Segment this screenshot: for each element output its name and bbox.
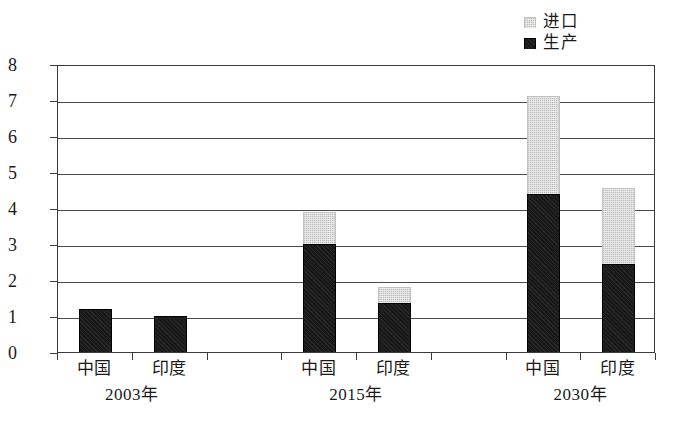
y-axis-tick-label: 2 bbox=[0, 272, 17, 290]
y-axis-tick-label: 6 bbox=[0, 128, 17, 146]
legend-item-production: 生产 bbox=[524, 33, 674, 54]
stacked-bar bbox=[602, 188, 635, 352]
y-axis-tick-label: 0 bbox=[0, 344, 17, 362]
x-axis-category-label: 中国 bbox=[54, 360, 134, 377]
bar-segment-import bbox=[378, 287, 411, 303]
x-axis-group-label: 2003年 bbox=[62, 386, 202, 403]
bar-segment-import bbox=[303, 212, 336, 244]
x-axis-tick-mark bbox=[57, 353, 58, 360]
x-axis-tick-mark bbox=[580, 353, 581, 360]
y-axis-tick-mark bbox=[50, 209, 57, 210]
y-axis-tick-mark bbox=[50, 317, 57, 318]
bar-segment-production bbox=[378, 303, 411, 352]
x-axis-tick-mark bbox=[132, 353, 133, 360]
y-axis-tick-label: 1 bbox=[0, 308, 17, 326]
legend-label-production: 生产 bbox=[543, 35, 578, 52]
gridline bbox=[58, 210, 654, 211]
stacked-bar bbox=[303, 212, 336, 352]
y-axis-tick-label: 7 bbox=[0, 92, 17, 110]
bar-segment-production bbox=[527, 194, 560, 352]
x-axis-category-label: 中国 bbox=[503, 360, 583, 377]
bar-segment-production bbox=[602, 264, 635, 352]
gridline bbox=[58, 102, 654, 103]
x-axis-tick-mark bbox=[431, 353, 432, 360]
gridline bbox=[58, 318, 654, 319]
y-axis-tick-mark bbox=[50, 137, 57, 138]
bar-segment-import bbox=[527, 96, 560, 193]
y-axis-tick-mark bbox=[50, 101, 57, 102]
x-axis-category-label: 印度 bbox=[353, 360, 433, 377]
y-axis-tick-mark bbox=[50, 245, 57, 246]
gridline bbox=[58, 138, 654, 139]
bar-segment-production bbox=[79, 309, 112, 352]
gridline bbox=[58, 174, 654, 175]
x-axis-category-label: 印度 bbox=[578, 360, 658, 377]
stacked-bar bbox=[79, 309, 112, 352]
y-axis-tick-mark bbox=[50, 65, 57, 66]
x-axis-tick-mark bbox=[356, 353, 357, 360]
y-axis-tick-mark bbox=[50, 281, 57, 282]
y-axis-tick-label: 5 bbox=[0, 164, 17, 182]
x-axis-group-label: 2015年 bbox=[286, 386, 426, 403]
legend-label-import: 进口 bbox=[543, 14, 578, 31]
bar-segment-production bbox=[154, 316, 187, 352]
stacked-bar bbox=[154, 316, 187, 352]
import-swatch-icon bbox=[524, 17, 536, 28]
y-axis-tick-mark bbox=[50, 353, 57, 354]
y-axis-tick-mark bbox=[50, 173, 57, 174]
x-axis-tick-mark bbox=[506, 353, 507, 360]
stacked-bar bbox=[527, 96, 560, 352]
x-axis-tick-mark bbox=[281, 353, 282, 360]
y-axis-tick-label: 4 bbox=[0, 200, 17, 218]
chart-legend: 进口 生产 bbox=[524, 12, 674, 54]
x-axis-tick-mark bbox=[207, 353, 208, 360]
x-axis-group-label: 2030年 bbox=[510, 386, 650, 403]
x-axis-category-label: 中国 bbox=[279, 360, 359, 377]
gridline bbox=[58, 282, 654, 283]
plot-area bbox=[57, 65, 655, 353]
y-axis-tick-label: 8 bbox=[0, 56, 17, 74]
bar-segment-production bbox=[303, 244, 336, 352]
gridline bbox=[58, 246, 654, 247]
bar-segment-import bbox=[602, 188, 635, 264]
x-axis-category-label: 印度 bbox=[129, 360, 209, 377]
production-swatch-icon bbox=[524, 38, 536, 49]
x-axis-tick-mark bbox=[655, 353, 656, 360]
legend-item-import: 进口 bbox=[524, 12, 674, 33]
y-axis-tick-label: 3 bbox=[0, 236, 17, 254]
stacked-bar bbox=[378, 287, 411, 352]
